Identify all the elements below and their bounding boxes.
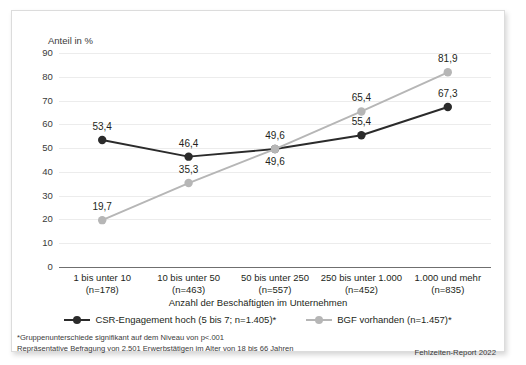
x-category-label: 50 bis unter 250(n=557) (241, 272, 309, 296)
data-point-label: 53,4 (92, 121, 111, 132)
y-tick-label: 60 (27, 118, 53, 129)
y-tick-label: 10 (27, 237, 53, 248)
x-axis-title: Anzahl der Beschäftigten im Unternehmen (12, 297, 504, 308)
x-category-name: 10 bis unter 50 (157, 272, 220, 283)
data-point-label: 19,7 (92, 201, 111, 212)
y-tick-label: 20 (27, 213, 53, 224)
data-point-label: 49,6 (265, 156, 284, 167)
footnote-sample: Repräsentative Befragung von 2.501 Erwer… (17, 344, 294, 355)
data-point-label: 65,4 (352, 92, 371, 103)
x-category-label: 250 bis unter 1.000(n=452) (321, 272, 402, 296)
y-tick-label: 70 (27, 95, 53, 106)
data-point-marker[interactable] (357, 131, 365, 139)
y-axis-title: Anteil in % (48, 35, 93, 46)
x-category-label: 1.000 und mehr(n=835) (415, 272, 482, 296)
x-axis-line (59, 267, 491, 268)
data-point-label: 46,4 (179, 138, 198, 149)
y-tick-label: 50 (27, 142, 53, 153)
data-point-marker[interactable] (444, 68, 452, 76)
x-category-name: 250 bis unter 1.000 (321, 272, 402, 283)
x-category-count: (n=178) (73, 284, 131, 296)
legend-marker-icon (64, 315, 90, 325)
data-point-label: 67,3 (438, 88, 457, 99)
data-point-marker[interactable] (98, 136, 106, 144)
legend-dot (73, 316, 81, 324)
data-point-marker[interactable] (98, 216, 106, 224)
legend-label: CSR-Engagement hoch (5 bis 7; n=1.405)* (95, 314, 276, 325)
legend-item[interactable]: BGF vorhanden (n=1.457)* (306, 314, 451, 325)
figure-card: Anteil in % 9080706050403020100 53,446,4… (11, 10, 505, 352)
data-point-label: 55,4 (352, 116, 371, 127)
legend-dot (315, 316, 323, 324)
x-category-label: 10 bis unter 50(n=463) (157, 272, 220, 296)
x-category-count: (n=835) (415, 284, 482, 296)
data-point-marker[interactable] (184, 152, 192, 160)
y-tick-label: 80 (27, 71, 53, 82)
x-category-label: 1 bis unter 10(n=178) (73, 272, 131, 296)
chart-legend: CSR-Engagement hoch (5 bis 7; n=1.405)*B… (12, 314, 504, 325)
x-category-count: (n=452) (321, 284, 402, 296)
legend-item[interactable]: CSR-Engagement hoch (5 bis 7; n=1.405)* (64, 314, 276, 325)
footnotes: *Gruppenunterschiede signifikant auf dem… (17, 333, 294, 354)
legend-marker-icon (306, 315, 332, 325)
data-point-marker[interactable] (444, 103, 452, 111)
source-credit: Fehlzeiten-Report 2022 (415, 348, 496, 357)
y-tick-label: 90 (27, 47, 53, 58)
data-point-label: 81,9 (438, 53, 457, 64)
data-point-marker[interactable] (184, 179, 192, 187)
data-point-label: 35,3 (179, 164, 198, 175)
y-tick-label: 40 (27, 166, 53, 177)
x-category-count: (n=557) (241, 284, 309, 296)
y-tick-label: 30 (27, 190, 53, 201)
x-category-name: 50 bis unter 250 (241, 272, 309, 283)
legend-label: BGF vorhanden (n=1.457)* (337, 314, 451, 325)
x-category-name: 1 bis unter 10 (73, 272, 131, 283)
data-point-label: 49,6 (265, 130, 284, 141)
data-point-marker[interactable] (357, 107, 365, 115)
figure-root: Anteil in % 9080706050403020100 53,446,4… (0, 0, 526, 365)
data-point-marker[interactable] (271, 145, 279, 153)
y-tick-label: 0 (27, 261, 53, 272)
x-category-count: (n=463) (157, 284, 220, 296)
footnote-significance: *Gruppenunterschiede signifikant auf dem… (17, 333, 294, 344)
x-category-name: 1.000 und mehr (415, 272, 482, 283)
